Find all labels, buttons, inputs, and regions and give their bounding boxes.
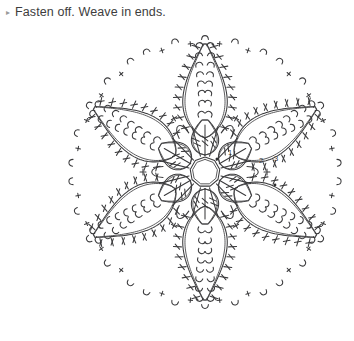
picot-arc (276, 280, 282, 286)
single-crochet-mark (101, 133, 108, 139)
petal-outline-inner (185, 206, 225, 300)
picot-arc (337, 178, 341, 185)
picot-loop (276, 217, 283, 223)
picot-loop (198, 81, 205, 86)
picot-loop (135, 212, 142, 218)
picot-loop (300, 232, 306, 238)
sc-cross (255, 108, 257, 114)
picot-arc (199, 100, 206, 106)
picot-arc (300, 78, 306, 84)
picot-loop (124, 209, 128, 216)
picot-loop (205, 100, 212, 106)
picot-arc (282, 209, 286, 216)
picot-loop (206, 267, 213, 272)
picot-loop (107, 217, 112, 224)
tip-picot (69, 146, 81, 166)
single-crochet-mark (237, 120, 242, 126)
single-crochet-mark (187, 54, 195, 59)
sc-cross (309, 217, 316, 218)
double-crochet-spoke (221, 161, 251, 169)
picot-arc (128, 217, 135, 223)
single-crochet-mark (262, 233, 269, 240)
tip-picot (120, 268, 134, 285)
single-crochet-mark (229, 95, 237, 100)
single-crochet-mark (134, 177, 137, 184)
sc-cross (123, 158, 130, 159)
spoke-tick-1 (175, 185, 176, 192)
picot-arc (202, 36, 209, 40)
sc-cross-v (190, 41, 191, 46)
picot-arc (198, 227, 205, 233)
crochet-snowflake-chart: 123 (0, 0, 354, 341)
picot-arc (198, 81, 205, 86)
single-crochet-mark (273, 236, 280, 243)
picot-arc (260, 49, 267, 54)
picot-arc (299, 120, 304, 127)
single-crochet-mark (111, 238, 113, 246)
picot-loop (199, 238, 206, 244)
picot-arc (260, 290, 267, 295)
double-crochet-spoke (221, 176, 251, 183)
spoke-tick-2 (211, 141, 215, 147)
tip-picot (74, 193, 80, 214)
single-crochet-mark (309, 214, 316, 220)
picot-arc (283, 116, 289, 122)
picot-loop (299, 120, 304, 127)
single-crochet-mark (174, 234, 182, 239)
picot-loop (206, 81, 213, 86)
picot-loop (198, 258, 205, 263)
picot-arc (197, 267, 204, 272)
picot-arc (135, 127, 142, 133)
sc-cross-v (76, 148, 81, 149)
tip-picot (202, 36, 222, 47)
picot-loop (115, 124, 119, 131)
single-crochet-mark (178, 264, 186, 269)
picot-loop (115, 213, 119, 220)
picot-arc (196, 62, 203, 67)
picot-arc (135, 212, 142, 218)
picot-loop (207, 62, 214, 67)
picot-loop (290, 124, 294, 131)
single-crochet-mark (215, 285, 223, 290)
double-crochet-spoke (219, 149, 245, 164)
single-crochet-mark (151, 107, 158, 114)
start-dot (216, 158, 219, 161)
tip-picot (99, 247, 110, 266)
picot-arc (337, 159, 341, 166)
picot-arc (199, 238, 206, 244)
spoke-tick-2 (179, 183, 180, 190)
petal-5 (69, 43, 205, 234)
single-crochet-mark (296, 141, 301, 148)
sc-cross (162, 225, 164, 231)
sc-cross (298, 141, 300, 147)
single-crochet-mark (141, 104, 148, 111)
sc-cross (283, 240, 290, 241)
single-crochet-mark (263, 163, 266, 171)
sc-cross-v (329, 195, 334, 196)
single-crochet-mark (236, 218, 243, 224)
picot-arc (124, 128, 128, 135)
picot-loop (120, 116, 126, 122)
picot-arc (198, 90, 205, 95)
picot-loop (198, 248, 205, 253)
single-crochet-mark (264, 104, 268, 111)
sc-cross (151, 110, 158, 111)
picot-loop (205, 90, 212, 95)
picot-arc (274, 132, 278, 139)
single-crochet-mark (116, 189, 120, 196)
picot-loop (205, 227, 212, 233)
sc-cross (142, 166, 149, 167)
picot-loop (205, 111, 212, 117)
picot-arc (69, 159, 73, 166)
single-crochet-mark (309, 123, 315, 129)
sc-cross (131, 104, 138, 105)
picot-arc (132, 132, 136, 139)
single-crochet-mark (283, 237, 290, 245)
picot-loop (274, 205, 278, 212)
picot-arc (300, 260, 306, 266)
single-crochet-mark (152, 230, 156, 237)
sc-cross (159, 115, 166, 116)
picot-arc (132, 205, 136, 212)
picot-arc (124, 209, 128, 216)
picot-loop (283, 222, 289, 228)
